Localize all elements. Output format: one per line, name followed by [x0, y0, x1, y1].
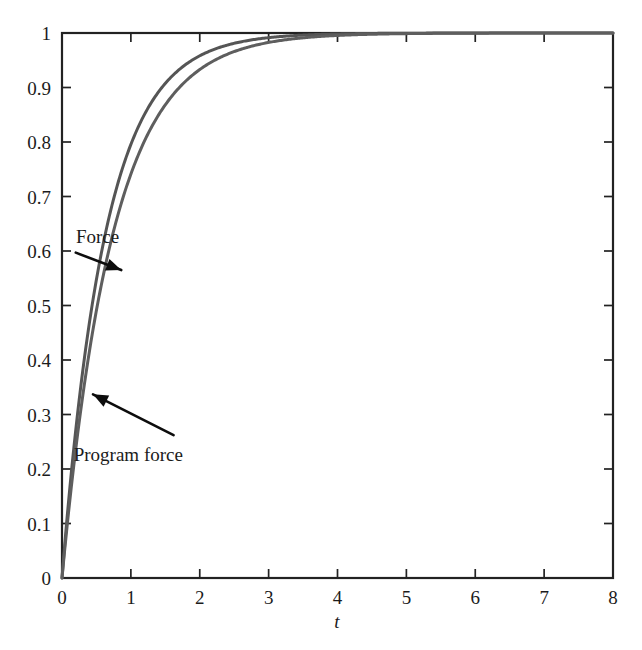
- x-tick-label: 2: [195, 587, 205, 608]
- x-tick-label: 6: [471, 587, 481, 608]
- y-tick-label: 0.3: [27, 405, 51, 426]
- x-tick-label: 7: [539, 587, 549, 608]
- chart-canvas: 012345678 00.10.20.30.40.50.60.70.80.91 …: [0, 0, 642, 650]
- x-tick-label: 5: [402, 587, 412, 608]
- x-tick-label: 0: [57, 587, 67, 608]
- x-axis-title: t: [334, 611, 340, 632]
- y-tick-label: 0.1: [27, 514, 51, 535]
- x-tick-label: 3: [264, 587, 274, 608]
- y-tick-label: 0.6: [27, 241, 51, 262]
- figure-container: 012345678 00.10.20.30.40.50.60.70.80.91 …: [0, 0, 642, 650]
- chart-background: [0, 0, 642, 650]
- y-tick-label: 0.8: [27, 132, 51, 153]
- y-tick-label: 0.4: [27, 350, 51, 371]
- y-tick-label: 0.9: [27, 78, 51, 99]
- x-tick-label: 8: [608, 587, 618, 608]
- x-tick-label: 1: [126, 587, 136, 608]
- x-tick-label: 4: [333, 587, 343, 608]
- y-tick-label: 0.5: [27, 296, 51, 317]
- y-tick-label: 1: [42, 23, 52, 44]
- y-tick-label: 0: [42, 568, 52, 589]
- annotation-label-0: Force: [76, 226, 119, 247]
- annotation-label-1: Program force: [74, 444, 183, 465]
- y-tick-label: 0.2: [27, 459, 51, 480]
- y-tick-label: 0.7: [27, 187, 51, 208]
